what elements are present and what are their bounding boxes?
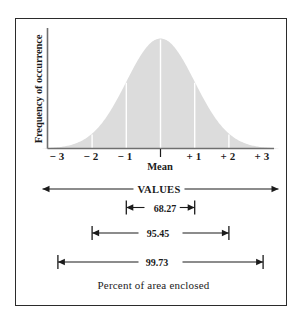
- normal-distribution-figure: Frequency of occurrence − 3 − 2 − 1 + 1 …: [0, 0, 307, 327]
- sigma-1-value: 68.27: [151, 202, 180, 213]
- mean-axis-label: Mean: [147, 161, 173, 172]
- x-tick-label-pos1: + 1: [186, 150, 201, 162]
- figure-caption: Percent of area enclosed: [0, 279, 307, 291]
- sigma-2-value: 95.45: [144, 228, 173, 239]
- x-tick-label-pos3: + 3: [254, 150, 269, 162]
- x-tick-label-neg3: − 3: [49, 150, 64, 162]
- y-axis-label: Frequency of occurrence: [33, 28, 47, 150]
- sigma-3-value: 99.73: [143, 257, 172, 268]
- x-tick-label-pos2: + 2: [220, 150, 235, 162]
- x-tick-label-neg1: − 1: [117, 150, 132, 162]
- x-tick-label-neg2: − 2: [83, 150, 98, 162]
- values-axis-label: VALUES: [133, 184, 184, 195]
